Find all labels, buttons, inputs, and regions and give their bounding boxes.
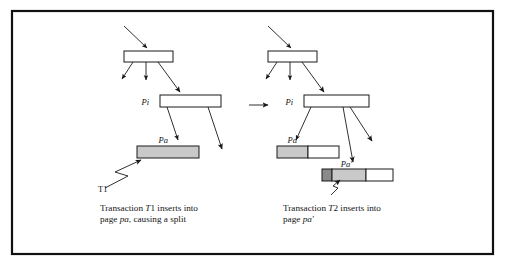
leaf-page-pa-right-empty bbox=[308, 146, 339, 158]
right-panel: Pi Pa Pa' Transaction T2 inserts into pa… bbox=[266, 26, 393, 224]
arrow-root-child1-left bbox=[122, 62, 133, 79]
left-panel: Pi Pa T1 Transaction T1 inserts into pag… bbox=[98, 26, 222, 224]
new-leaf-inserted-cell bbox=[322, 169, 332, 181]
arrow-internal-to-leaf-left bbox=[167, 107, 178, 140]
internal-node-label-left: Pi bbox=[140, 97, 149, 107]
arrow-internal-to-newleaf-right bbox=[343, 107, 353, 162]
arrow-root-to-internal-right bbox=[302, 62, 324, 92]
internal-node-left bbox=[160, 95, 221, 107]
figure-root: Pi Pa T1 Transaction T1 inserts into pag… bbox=[0, 0, 507, 267]
arrow-root-to-internal-left bbox=[158, 62, 180, 92]
root-node-right bbox=[268, 51, 317, 62]
new-leaf-pa-prime-empty bbox=[366, 169, 393, 181]
leaf-page-label-right: Pa bbox=[287, 135, 297, 145]
caption-right-line1: Transaction T2 inserts into bbox=[283, 203, 381, 213]
leaf-page-pa-left bbox=[137, 146, 199, 158]
arrow-root-child1-right bbox=[266, 62, 277, 79]
arrow-into-root-left bbox=[124, 26, 147, 48]
arrow-internal-to-leaf-right bbox=[296, 107, 311, 140]
transaction-label-left: T1 bbox=[98, 184, 107, 194]
diagram-canvas: Pi Pa T1 Transaction T1 inserts into pag… bbox=[0, 0, 507, 267]
caption-left-line2: page pa, causing a split bbox=[100, 214, 186, 224]
arrow-internal-right-right bbox=[350, 107, 372, 141]
internal-node-label-right: Pi bbox=[284, 97, 293, 107]
new-leaf-pa-prime-filled bbox=[332, 169, 366, 181]
internal-node-right bbox=[304, 95, 369, 107]
transaction-arrow-left bbox=[105, 160, 141, 188]
leaf-page-label-left: Pa bbox=[158, 135, 168, 145]
leaf-page-pa-right-filled bbox=[277, 146, 308, 158]
new-leaf-page-label-right: Pa' bbox=[340, 159, 352, 169]
caption-left-line1: Transaction T1 inserts into bbox=[100, 203, 198, 213]
root-node-left bbox=[124, 51, 173, 62]
figure-frame bbox=[12, 11, 493, 254]
caption-right-line2: page pa' bbox=[283, 214, 315, 224]
transaction-arrow-right bbox=[331, 180, 340, 195]
arrow-internal-right-left bbox=[208, 107, 222, 149]
arrow-into-root-right bbox=[268, 26, 291, 48]
